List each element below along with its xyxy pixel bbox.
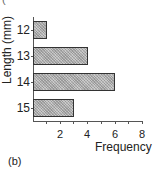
x-tick-label: 2 xyxy=(53,128,67,140)
bar-14mm xyxy=(33,73,115,91)
y-tick-label: 14 xyxy=(14,75,30,89)
x-minor-tick xyxy=(101,121,102,124)
x-tick xyxy=(142,121,143,124)
x-tick xyxy=(87,121,88,124)
x-minor-tick xyxy=(46,121,47,124)
x-axis xyxy=(33,121,143,122)
bar-13mm xyxy=(33,47,88,65)
x-tick-label: 8 xyxy=(135,128,149,140)
y-tick-label: 15 xyxy=(14,101,30,115)
y-tick-label: 12 xyxy=(14,23,30,37)
x-tick-label: 4 xyxy=(80,128,94,140)
x-axis-title: Frequency xyxy=(95,140,152,154)
x-tick xyxy=(60,121,61,124)
x-minor-tick xyxy=(128,121,129,124)
panel-label-b: (b) xyxy=(8,155,21,167)
bar-15mm xyxy=(33,99,74,117)
x-tick-label: 6 xyxy=(108,128,122,140)
x-minor-tick xyxy=(73,121,74,124)
panel-label-a: ( xyxy=(2,0,6,5)
y-tick-label: 13 xyxy=(14,49,30,63)
bar-12mm xyxy=(33,21,47,39)
y-axis-title: Length (mm) xyxy=(0,28,14,84)
x-tick xyxy=(115,121,116,124)
